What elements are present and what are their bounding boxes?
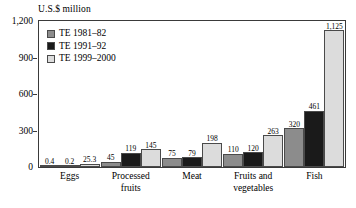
bar-value-label: 79: [188, 149, 196, 158]
x-axis-category-labels: EggsProcessedfruitsMeatFruits andvegetab…: [39, 170, 345, 194]
bar-value-label: 145: [145, 141, 156, 150]
bar[interactable]: 320: [284, 128, 304, 167]
bar-groups: 0.40.225.3451191457579198110120263320461…: [39, 21, 345, 167]
bar-value-label: 461: [309, 102, 320, 111]
bar-slot: 79: [182, 21, 202, 167]
y-tick-mark: [33, 131, 37, 132]
y-tick-label: 1,200: [12, 16, 33, 26]
bar-slot: 320: [284, 21, 304, 167]
bar[interactable]: 1,125: [324, 30, 344, 167]
bar-value-label: 0.2: [65, 157, 74, 166]
bar-slot: 25.3: [80, 21, 100, 167]
bar[interactable]: 461: [304, 111, 324, 167]
bar-value-label: 0.4: [45, 157, 54, 166]
bar[interactable]: 45: [101, 162, 121, 167]
x-axis-label-line1: Eggs: [60, 171, 79, 181]
bar[interactable]: 25.3: [80, 164, 100, 167]
x-axis-label-line1: Fruits and: [234, 171, 272, 181]
bar-slot: 110: [223, 21, 243, 167]
bar-value-label: 110: [228, 145, 239, 154]
bar-group: 0.40.225.3: [39, 21, 100, 167]
x-axis-label: Eggs: [39, 170, 100, 194]
bar-value-label: 263: [268, 127, 279, 136]
bar-slot: 120: [243, 21, 263, 167]
y-tick-label: 0: [28, 162, 33, 172]
y-tick-label: 300: [19, 126, 33, 136]
bar-value-label: 198: [206, 134, 217, 143]
y-tick-label: 600: [19, 89, 33, 99]
bar-group: 110120263: [223, 21, 284, 167]
bar-slot: 119: [121, 21, 141, 167]
bar-group: 45119145: [100, 21, 161, 167]
x-axis-label-line2: fruits: [100, 182, 161, 194]
bar-slot: 75: [162, 21, 182, 167]
x-axis-label: Processedfruits: [100, 170, 161, 194]
bar-group: 3204611,125: [284, 21, 345, 167]
bar-value-label: 320: [289, 120, 300, 129]
bar-slot: 263: [263, 21, 283, 167]
bar-chart-figure: U.S.$ million 03006009001,200 TE 1981–82…: [0, 0, 356, 208]
bar-slot: 198: [202, 21, 222, 167]
bar-slot: 461: [304, 21, 324, 167]
y-tick-mark: [33, 94, 37, 95]
y-tick-mark: [33, 58, 37, 59]
bar-value-label: 45: [107, 153, 115, 162]
bar[interactable]: 263: [263, 135, 283, 167]
y-axis-tick-labels: 03006009001,200: [0, 20, 33, 168]
bar-value-label: 1,125: [326, 22, 343, 31]
bar[interactable]: 79: [182, 157, 202, 167]
bar-slot: 1,125: [324, 21, 344, 167]
x-axis-label: Meat: [161, 170, 222, 194]
bar-group: 7579198: [161, 21, 222, 167]
bar[interactable]: 145: [141, 149, 161, 167]
x-axis-label-line2: vegetables: [223, 182, 284, 194]
bar-value-label: 119: [125, 144, 136, 153]
bar-slot: 0.2: [60, 21, 80, 167]
bar[interactable]: 75: [162, 158, 182, 167]
bar[interactable]: 120: [243, 152, 263, 167]
bar-value-label: 120: [248, 144, 259, 153]
bar-value-label: 75: [168, 149, 176, 158]
y-axis-unit-label: U.S.$ million: [38, 4, 91, 14]
bar[interactable]: 110: [223, 154, 243, 167]
x-axis-label-line1: Processed: [112, 171, 150, 181]
x-axis-label-line1: Fish: [306, 171, 322, 181]
bar[interactable]: 0.2: [60, 165, 80, 167]
bar-value-label: 25.3: [83, 155, 96, 164]
bar-slot: 0.4: [40, 21, 60, 167]
x-axis-label: Fish: [284, 170, 345, 194]
bar-slot: 145: [141, 21, 161, 167]
x-axis-label: Fruits andvegetables: [223, 170, 284, 194]
bar[interactable]: 119: [121, 153, 141, 167]
bar[interactable]: 198: [202, 143, 222, 167]
bar-slot: 45: [101, 21, 121, 167]
y-tick-label: 900: [19, 53, 33, 63]
bar[interactable]: 0.4: [40, 165, 60, 167]
x-axis-label-line1: Meat: [182, 171, 202, 181]
